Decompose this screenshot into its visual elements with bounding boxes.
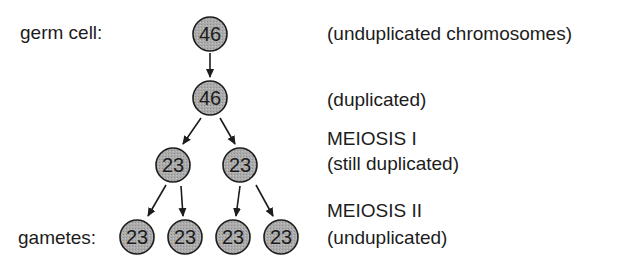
arrows bbox=[148, 53, 273, 216]
svg-text:23: 23 bbox=[222, 226, 244, 248]
meiosis-tree: 46 46 23 23 23 23 23 23 bbox=[0, 0, 628, 272]
svg-text:23: 23 bbox=[270, 226, 292, 248]
arrow-left-to-g1 bbox=[148, 185, 166, 216]
svg-text:23: 23 bbox=[229, 154, 251, 176]
arrow-left-to-g2 bbox=[181, 186, 183, 216]
arrow-dup-to-right bbox=[220, 118, 235, 144]
svg-text:23: 23 bbox=[174, 226, 196, 248]
cell-gamete-1: 23 bbox=[120, 220, 154, 254]
cell-gamete-4: 23 bbox=[264, 220, 298, 254]
cell-gamete-3: 23 bbox=[216, 220, 250, 254]
svg-text:46: 46 bbox=[199, 23, 221, 45]
svg-text:46: 46 bbox=[199, 87, 221, 109]
cell-duplicated: 46 bbox=[193, 81, 227, 115]
cell-germ: 46 bbox=[193, 17, 227, 51]
svg-text:23: 23 bbox=[126, 226, 148, 248]
arrow-dup-to-left bbox=[183, 118, 201, 144]
svg-text:23: 23 bbox=[162, 154, 184, 176]
cell-meiosis1-left: 23 bbox=[156, 148, 190, 182]
cell-gamete-2: 23 bbox=[168, 220, 202, 254]
arrow-right-to-g3 bbox=[236, 186, 240, 216]
arrow-right-to-g4 bbox=[256, 185, 273, 216]
cell-meiosis1-right: 23 bbox=[223, 148, 257, 182]
